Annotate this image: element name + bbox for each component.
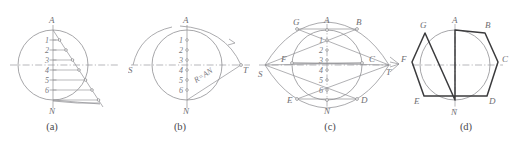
vertex-label-S: S [128,65,133,75]
vertex-label-G: G [420,20,427,30]
division-label-4: 4 [179,66,183,75]
vertex-label-B: B [356,17,362,27]
transfer-ruler-line [53,30,103,107]
vertex-label-N: N [323,106,331,116]
radius-annotation: R=AN [191,66,214,86]
vertex-label-A: A [323,15,330,25]
vertex-label-A: A [451,15,458,25]
heptagon-construction-figure: 1 2 3 4 5 6 A N [0,0,516,143]
division-label-6: 6 [45,86,49,95]
vertex-label-G: G [293,17,300,27]
division-label-4: 4 [319,66,323,75]
division-numbers: 1 2 3 4 5 6 [44,36,49,95]
division-label-3: 3 [178,56,183,65]
vertex-label-T: T [243,65,249,75]
vertex-label-N: N [48,106,56,116]
arrow-head [228,39,235,45]
division-label-2: 2 [45,46,49,55]
division-label-4: 4 [45,66,49,75]
vertex-label-D: D [488,96,496,106]
vertex-label-A: A [48,15,55,25]
point-T-marker [240,64,243,67]
vertex-label-B: B [485,20,491,30]
residual-ray-fan [390,57,399,72]
division-numbers: 1 2 3 4 5 6 [318,36,323,95]
vertex-label-C: C [369,54,376,64]
caption-c: (c) [324,121,336,132]
division-label-2: 2 [179,46,183,55]
vertex-label-S: S [258,69,263,79]
panel-d-diagram: A B C D E F G N [390,0,516,126]
division-label-3: 3 [44,56,49,65]
vertex-label-E: E [286,95,293,105]
panel-c-diagram: 1 2 3 4 5 6 A B C D E F G N S T [256,0,392,126]
panel-b-diagram: R=AN 1 2 3 4 5 6 A N S T [128,0,256,126]
vertex-label-F: F [280,54,287,64]
division-label-1: 1 [45,36,49,45]
division-label-2: 2 [319,46,323,55]
arc-from-A-to-T [180,26,241,65]
division-label-5: 5 [179,76,183,85]
division-label-6: 6 [319,86,323,95]
division-label-6: 6 [179,86,183,95]
division-numbers: 1 2 3 4 5 6 [178,36,183,95]
caption-d: (d) [460,121,472,132]
vertex-label-N: N [182,106,190,116]
vertex-label-D: D [360,95,368,105]
panel-a-diagram: 1 2 3 4 5 6 A N [0,0,128,126]
division-label-1: 1 [319,36,323,45]
vertex-label-F: F [400,54,407,64]
vertex-label-E: E [413,96,420,106]
vertex-label-A: A [182,15,189,25]
division-label-3: 3 [318,56,323,65]
division-label-5: 5 [45,76,49,85]
vertex-label-C: C [502,54,509,64]
caption-b: (b) [174,121,186,132]
caption-a: (a) [46,121,58,132]
division-label-5: 5 [319,76,323,85]
vertex-label-N: N [450,107,458,117]
division-label-1: 1 [179,36,183,45]
